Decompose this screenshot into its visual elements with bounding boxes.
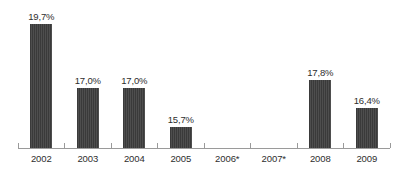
bar-rect-2008 [309, 80, 331, 148]
bar-column-2009: 16,4% [344, 0, 391, 148]
axis-label-2006: 2006* [204, 152, 251, 165]
axis-tick [111, 143, 112, 148]
axis-tick [157, 143, 158, 148]
bar-slot: 16,4% [344, 0, 391, 148]
bar-slot [204, 0, 251, 148]
bar-slot: 15,7% [158, 0, 205, 148]
bar-column-2008: 17,8% [297, 0, 344, 148]
axis-tick [250, 143, 251, 148]
axis-tick [390, 143, 391, 148]
bar-chart: 19,7% 17,0% 17,0% 15,7% [0, 0, 408, 180]
axis-tick [64, 143, 65, 148]
axis-label-2003: 2003 [65, 152, 112, 165]
bar-column-2003: 17,0% [65, 0, 112, 148]
bar-value-label: 19,7% [28, 11, 54, 22]
bar-rect-2009 [356, 108, 378, 148]
axis-label-2007: 2007* [251, 152, 298, 165]
bar-rect-2003 [77, 88, 99, 148]
axis-tick [297, 143, 298, 148]
bar-slot: 17,8% [297, 0, 344, 148]
bar-column-2007 [251, 0, 298, 148]
bar-value-label: 15,7% [168, 114, 194, 125]
bar-rect-2002 [30, 24, 52, 148]
axis-label-2008: 2008 [297, 152, 344, 165]
axis-tick [343, 143, 344, 148]
x-axis-line [18, 148, 390, 149]
axis-label-2005: 2005 [158, 152, 205, 165]
bar-column-2002: 19,7% [18, 0, 65, 148]
bar-column-2005: 15,7% [158, 0, 205, 148]
bar-column-2006 [204, 0, 251, 148]
bar-slot: 19,7% [18, 0, 65, 148]
bar-rect-2004 [123, 88, 145, 148]
bar-value-label: 17,0% [75, 75, 101, 86]
axis-label-2009: 2009 [344, 152, 391, 165]
axis-tick [204, 143, 205, 148]
axis-tick [18, 143, 19, 148]
bar-value-label: 16,4% [354, 95, 380, 106]
x-axis-labels: 2002 2003 2004 2005 2006* 2007* 2008 200… [18, 152, 390, 172]
bar-slot: 17,0% [111, 0, 158, 148]
plot-area: 19,7% 17,0% 17,0% 15,7% [18, 0, 390, 148]
bar-slot [251, 0, 298, 148]
bar-column-2004: 17,0% [111, 0, 158, 148]
axis-label-2002: 2002 [18, 152, 65, 165]
bar-rect-2005 [170, 127, 192, 148]
bar-slot: 17,0% [65, 0, 112, 148]
bar-value-label: 17,0% [121, 75, 147, 86]
bar-value-label: 17,8% [307, 67, 333, 78]
axis-label-2004: 2004 [111, 152, 158, 165]
